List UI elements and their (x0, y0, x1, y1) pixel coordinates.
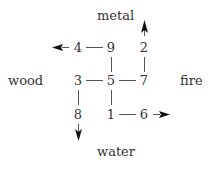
node-6: 6 (139, 108, 149, 121)
label-wood: wood (8, 74, 43, 87)
node-1: 1 (106, 108, 116, 121)
node-2: 2 (139, 41, 149, 54)
node-4: 4 (73, 41, 83, 54)
label-metal: metal (97, 9, 134, 22)
node-9: 9 (106, 41, 116, 54)
label-water: water (97, 145, 135, 158)
node-5: 5 (106, 74, 116, 87)
label-fire: fire (180, 74, 203, 87)
node-3: 3 (73, 74, 83, 87)
arrow-left-icon (52, 44, 63, 51)
arrow-right-icon (159, 111, 170, 118)
node-7: 7 (139, 74, 149, 87)
node-8: 8 (73, 108, 83, 121)
